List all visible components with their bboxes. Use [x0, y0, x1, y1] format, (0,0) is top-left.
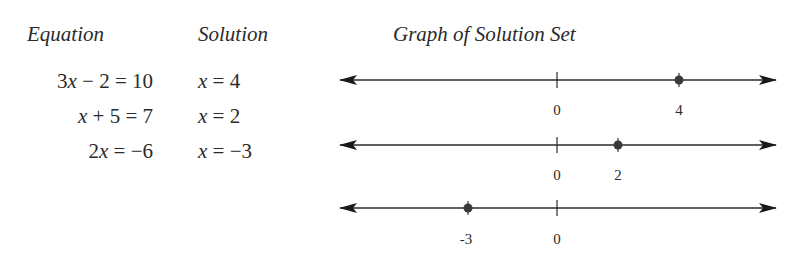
zero-label: 0	[553, 102, 561, 118]
point-label: -3	[460, 231, 473, 247]
point-label: 2	[614, 167, 622, 183]
number-lines-graph: 0 4 0 2 -3 0	[0, 0, 785, 255]
number-line-3: -3 0	[340, 200, 776, 247]
point-label: 4	[675, 102, 683, 118]
zero-label: 0	[553, 167, 561, 183]
zero-label: 0	[553, 231, 561, 247]
number-line-2: 0 2	[340, 137, 776, 183]
number-line-1: 0 4	[340, 72, 776, 118]
